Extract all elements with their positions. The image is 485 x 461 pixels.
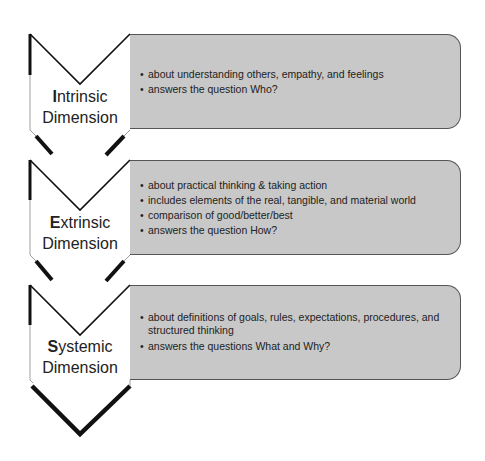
step-box-intrinsic: about understanding others, empathy, and… xyxy=(130,34,461,129)
bullet-list: about practical thinking & taking action… xyxy=(140,178,450,238)
bullet-item: about definitions of goals, rules, expec… xyxy=(140,311,450,337)
step-box-systemic: about definitions of goals, rules, expec… xyxy=(130,285,461,380)
bullet-list: about definitions of goals, rules, expec… xyxy=(140,311,450,354)
bullet-item: includes elements of the real, tangible,… xyxy=(140,193,450,208)
step-subtitle: Dimension xyxy=(30,233,130,254)
bullet-item: about practical thinking & taking action xyxy=(140,178,450,193)
step-title: Extrinsic xyxy=(30,212,130,233)
step-label-extrinsic: Extrinsic Dimension xyxy=(30,212,130,254)
step-label-intrinsic: Intrinsic Dimension xyxy=(30,86,130,128)
step-title: Systemic xyxy=(30,336,130,357)
bullet-item: answers the questions What and Why? xyxy=(140,339,450,354)
step-title: Intrinsic xyxy=(30,86,130,107)
bullet-list: about understanding others, empathy, and… xyxy=(140,67,450,97)
step-box-extrinsic: about practical thinking & taking action… xyxy=(130,160,461,255)
bullet-item: about understanding others, empathy, and… xyxy=(140,67,450,82)
bullet-item: answers the question Who? xyxy=(140,82,450,97)
bullet-item: answers the question How? xyxy=(140,223,450,238)
step-subtitle: Dimension xyxy=(30,357,130,378)
step-label-systemic: Systemic Dimension xyxy=(30,336,130,378)
dimension-diagram: Intrinsic Dimension about understanding … xyxy=(0,0,485,461)
bullet-item: comparison of good/better/best xyxy=(140,208,450,223)
step-subtitle: Dimension xyxy=(30,107,130,128)
